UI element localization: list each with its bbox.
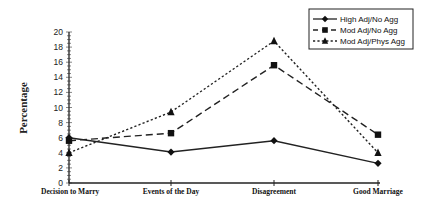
square-marker (322, 27, 328, 33)
triangle-marker (65, 149, 72, 156)
y-axis-label: Percentage (17, 82, 29, 134)
x-axis: Decision to MarryEvents of the DayDisagr… (41, 180, 404, 196)
y-tick-label: 12 (54, 87, 64, 97)
y-tick-label: 18 (54, 42, 64, 52)
series-high-adj-no-agg (65, 134, 381, 167)
y-tick-label: 16 (54, 57, 64, 67)
y-tick-label: 8 (58, 118, 63, 128)
diamond-marker (374, 160, 381, 167)
square-marker (375, 131, 381, 137)
x-tick-label: Decision to Marry (41, 187, 100, 196)
y-axis: 02468101214161820 (54, 27, 72, 188)
square-marker (271, 62, 277, 68)
series-mod-adj-no-agg (66, 62, 381, 144)
legend-label: Mod Adj/No Agg (340, 26, 397, 35)
x-tick-label: Events of the Day (143, 187, 200, 196)
line-chart: 02468101214161820 Decision to MarryEvent… (0, 0, 426, 208)
triangle-marker (167, 108, 174, 115)
legend: High Adj/No AggMod Adj/No AggMod Adj/Phy… (309, 9, 413, 49)
y-tick-label: 10 (54, 103, 64, 113)
y-tick-label: 20 (54, 27, 64, 37)
x-tick-label: Good Marriage (353, 187, 403, 196)
legend-label: High Adj/No Agg (340, 15, 398, 24)
legend-label: Mod Adj/Phys Agg (340, 37, 405, 46)
y-tick-label: 14 (54, 72, 64, 82)
x-tick-label: Disagreement (252, 187, 297, 196)
series-mod-adj-phys-agg (65, 37, 381, 156)
series-group (65, 37, 381, 167)
y-tick-label: 2 (58, 163, 63, 173)
diamond-marker (167, 148, 174, 155)
y-tick-label: 4 (58, 148, 63, 158)
square-marker (168, 130, 174, 136)
diamond-marker (270, 137, 277, 144)
y-tick-label: 6 (58, 133, 63, 143)
triangle-marker (270, 37, 277, 44)
